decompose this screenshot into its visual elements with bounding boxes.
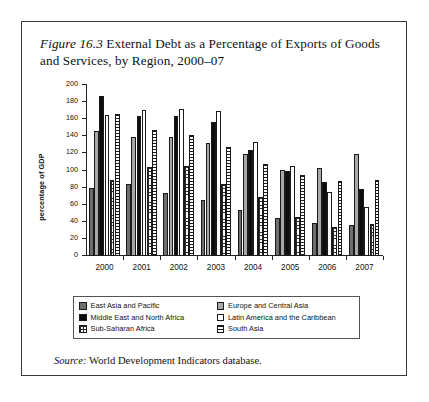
x-tick [272,256,273,260]
bar-group [86,85,123,256]
x-tick [346,256,347,260]
bar [322,182,327,256]
bar [115,114,120,256]
bar [354,154,359,256]
y-tick-label: 140 [66,130,78,139]
bar [216,111,221,256]
x-tick [383,256,384,260]
y-tick-label: 100 [66,165,78,174]
bar [189,135,194,256]
chart-area: percentage of GDP 0204060801001201401601… [41,80,391,290]
source-label: Source: [54,355,87,366]
bar [94,131,99,256]
bar [226,147,231,256]
bar [142,110,147,256]
bar [163,193,168,256]
bar-group [123,85,160,256]
bar [349,225,354,256]
bar [184,166,189,256]
bar [201,200,206,256]
bar [179,109,184,256]
bar [137,116,142,256]
legend-label: East Asia and Pacific [91,300,160,312]
y-tick-label: 120 [66,147,78,156]
bar [253,142,258,256]
y-tick-label: 60 [70,199,78,208]
bar [275,218,280,256]
bar [89,188,94,256]
bar [99,96,104,256]
bar [285,171,290,256]
legend-item-mena: Middle East and North Africa [79,312,217,324]
bar [300,175,305,256]
bar [317,168,322,256]
bar-group [346,85,383,256]
bar [258,197,263,256]
y-tick-label: 20 [70,233,78,242]
legend-item-eap: East Asia and Pacific [79,300,217,312]
legend-item-lac: Latin America and the Caribbean [217,312,355,324]
bar [332,227,337,256]
x-tick-label: 2002 [170,263,188,272]
bar-group [272,85,309,256]
bar [131,137,136,256]
bar-group [235,85,272,256]
legend-swatch-icon [217,314,225,322]
bar [312,223,317,256]
bar [370,224,375,256]
x-tick-label: 2006 [318,263,336,272]
bar [174,116,179,256]
bar-group [160,85,197,256]
x-tick-label: 2007 [355,263,373,272]
chart-legend: East Asia and PacificEurope and Central … [73,296,360,339]
bar [110,180,115,256]
source-note: Source: World Development Indicators dat… [54,355,262,366]
bar [152,130,157,256]
y-tick-label: 40 [70,216,78,225]
bar [338,181,343,256]
legend-swatch-icon [79,302,87,310]
x-tick [197,256,198,260]
legend-swatch-icon [79,314,87,322]
legend-item-eca: Europe and Central Asia [217,300,355,312]
x-tick [123,256,124,260]
bar [169,137,174,256]
bar [105,115,110,256]
bar [248,150,253,256]
legend-label: Latin America and the Caribbean [228,312,336,324]
legend-row: East Asia and PacificEurope and Central … [79,300,354,312]
legend-label: South Asia [228,323,263,335]
x-tick-label: 2000 [95,263,113,272]
bar [243,154,248,256]
y-tick-label: 180 [66,96,78,105]
legend-label: Europe and Central Asia [228,300,308,312]
bar [221,184,226,256]
legend-label: Sub-Saharan Africa [91,323,155,335]
x-tick [309,256,310,260]
legend-row: Middle East and North AfricaLatin Americ… [79,312,354,324]
legend-label: Middle East and North Africa [91,312,185,324]
legend-row: Sub-Saharan AfricaSouth Asia [79,323,354,335]
legend-swatch-icon [79,325,87,333]
bar [364,207,369,256]
bar [206,143,211,256]
x-tick-label: 2004 [244,263,262,272]
bar [327,192,332,256]
bar [147,167,152,256]
legend-item-ssa: Sub-Saharan Africa [79,323,217,335]
y-tick-label: 160 [66,113,78,122]
bar [263,164,268,256]
bar [375,180,380,256]
x-tick [160,256,161,260]
x-tick-label: 2005 [281,263,299,272]
legend-swatch-icon [217,302,225,310]
bar [126,184,131,256]
figure-number: Figure 16.3 [40,36,103,51]
legend-swatch-icon [217,325,225,333]
bar-group [309,85,346,256]
bar [290,166,295,256]
x-tick-label: 2001 [133,263,151,272]
x-tick [235,256,236,260]
source-text: World Development Indicators database. [89,355,262,366]
y-axis-label: percentage of GDP [37,132,46,242]
